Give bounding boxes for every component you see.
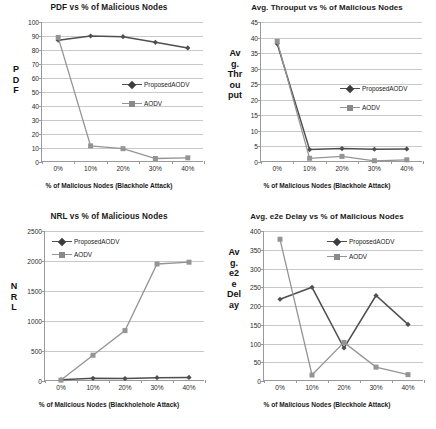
y-axis-label-line-1: R — [6, 292, 22, 303]
data-point-marker — [307, 156, 312, 161]
x-tick-label: 20% — [335, 165, 348, 172]
legend-marker-square-icon — [52, 250, 72, 259]
legend-label-proposed: ProposedAODV — [362, 85, 407, 92]
y-axis-label-line-1: g. — [220, 59, 250, 70]
chart-title-pdf: PDF vs % of Malicious Nodes — [0, 3, 218, 12]
y-axis-label-line-4: Del — [220, 289, 248, 300]
legend-item-aodv: AODV — [327, 251, 394, 262]
x-tick-label: 10% — [305, 384, 318, 391]
y-tick-label: 5 — [254, 143, 258, 150]
legend-marker-square-icon — [122, 99, 142, 108]
x-tick-label: 0% — [272, 165, 282, 172]
x-tick-mark — [205, 380, 206, 383]
y-tick-label: 30 — [251, 65, 258, 72]
x-tick-label: 40% — [181, 165, 194, 172]
data-point-marker — [91, 353, 96, 358]
y-tick-label: 25 — [251, 81, 258, 88]
y-axis-label-line-3: ou — [220, 80, 250, 91]
chart-panel-delay: Avg. e2e Delay vs % of Malicious Nodes A… — [218, 209, 436, 429]
y-axis-label-line-0: P — [8, 64, 24, 75]
x-tick-label: 10% — [303, 165, 316, 172]
data-point-marker — [406, 372, 411, 377]
legend-label-aodv: AODV — [362, 104, 380, 111]
data-point-marker — [187, 260, 192, 265]
y-tick-label: 50 — [254, 359, 261, 366]
y-axis-label-line-1: D — [8, 75, 24, 86]
x-tick-label: 20% — [337, 384, 350, 391]
x-tick-label: 20% — [116, 165, 129, 172]
chart-title-nrl: NRL vs % of Malicious Nodes — [0, 212, 218, 221]
y-tick-label: 150 — [250, 321, 261, 328]
chart-title-delay: Avg. e2e Delay vs % of Malicious Nodes — [218, 212, 436, 221]
x-tick-mark — [204, 161, 205, 164]
legend-marker-square-icon — [327, 252, 347, 261]
data-point-marker — [88, 143, 93, 148]
data-point-marker — [153, 156, 158, 161]
data-point-marker — [120, 34, 125, 39]
data-point-marker — [185, 45, 190, 50]
x-tick-label: 0% — [53, 165, 63, 172]
y-tick-label: 0 — [35, 159, 39, 166]
chart-panel-nrl: NRL vs % of Malicious Nodes NRL 05001000… — [0, 209, 218, 429]
data-point-marker — [372, 147, 377, 152]
chart-panel-throughput: Avg. Throuput vs % of Malicious Nodes Av… — [218, 0, 436, 214]
y-tick-label: 500 — [31, 348, 42, 355]
x-tick-mark — [423, 161, 424, 164]
x-tick-mark — [424, 380, 425, 383]
four-panel-chart-figure: PDF vs % of Malicious Nodes PDF 01020304… — [0, 0, 436, 429]
y-axis-label-line-5: ay — [220, 300, 248, 311]
x-tick-label: 10% — [86, 384, 99, 391]
y-tick-label: 60 — [32, 75, 39, 82]
x-axis-label-nrl: % of Malicious Nodes (Blackholehole Atta… — [0, 401, 218, 408]
y-tick-label: 45 — [251, 19, 258, 26]
legend-delay: ProposedAODV AODV — [327, 236, 394, 262]
series-line-proposed — [280, 287, 408, 348]
data-point-marker — [340, 154, 345, 159]
legend-pdf: ProposedAODV AODV — [122, 79, 189, 109]
data-point-marker — [309, 285, 314, 290]
data-point-marker — [404, 146, 409, 151]
y-tick-label: 50 — [32, 89, 39, 96]
data-point-marker — [372, 158, 377, 163]
x-tick-label: 20% — [118, 384, 131, 391]
y-axis-label-nrl: NRL — [6, 281, 22, 313]
y-axis-label-delay: Avg.e2eDelay — [220, 247, 248, 311]
chart-title-throughput: Avg. Throuput vs % of Malicious Nodes — [218, 3, 436, 12]
y-tick-label: 20 — [32, 131, 39, 138]
y-axis-label-pdf: PDF — [8, 64, 24, 96]
legend-item-proposed: ProposedAODV — [52, 236, 119, 247]
x-tick-label: 0% — [275, 384, 285, 391]
y-axis-label-line-2: F — [8, 85, 24, 96]
y-tick-label: 300 — [250, 265, 261, 272]
y-axis-label-line-0: Av — [220, 247, 248, 258]
data-point-marker — [277, 297, 282, 302]
y-tick-label: 350 — [250, 246, 261, 253]
data-point-marker — [404, 157, 409, 162]
y-axis-label-line-3: e — [220, 279, 248, 290]
y-axis-label-throughput: Avg.Throuput — [220, 48, 250, 101]
data-point-marker — [121, 146, 126, 151]
x-axis-label-delay: % of Malicious Nodes (Bleckhole Attack) — [218, 401, 436, 408]
y-tick-label: 0 — [38, 378, 42, 385]
data-point-marker — [90, 376, 95, 381]
y-axis-label-line-4: put — [220, 90, 250, 101]
legend-throughput: ProposedAODV AODV — [340, 83, 407, 113]
legend-marker-diamond-icon — [327, 237, 347, 246]
y-tick-label: 250 — [250, 284, 261, 291]
x-tick-label: 30% — [369, 384, 382, 391]
y-axis-label-line-2: L — [6, 302, 22, 313]
data-point-marker — [278, 237, 283, 242]
legend-item-aodv: AODV — [340, 102, 407, 113]
y-axis-label-line-0: N — [6, 281, 22, 292]
data-point-marker — [275, 39, 280, 44]
y-tick-label: 0 — [254, 159, 258, 166]
x-tick-label: 30% — [150, 384, 163, 391]
legend-marker-diamond-icon — [340, 84, 360, 93]
y-axis-label-line-0: Av — [220, 48, 250, 59]
y-tick-label: 80 — [32, 47, 39, 54]
legend-label-aodv: AODV — [74, 251, 92, 258]
x-tick-label: 40% — [401, 384, 414, 391]
data-point-marker — [122, 376, 127, 381]
x-tick-label: 10% — [84, 165, 97, 172]
data-point-marker — [342, 340, 347, 345]
